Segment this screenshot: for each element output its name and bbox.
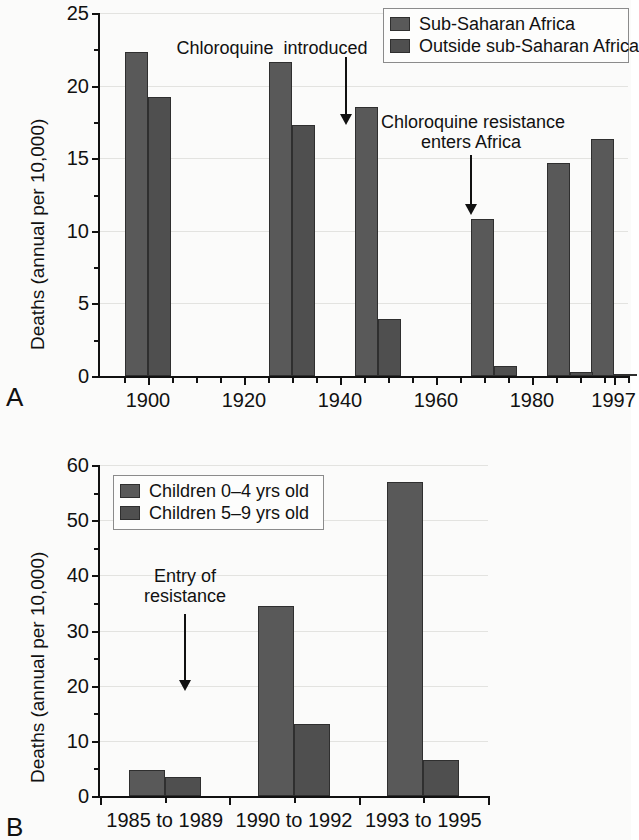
x-tick-mid — [294, 796, 296, 803]
y-tick-major — [92, 158, 100, 160]
x-tick-label: 1997 — [591, 390, 636, 410]
y-tick-minor — [94, 768, 100, 770]
x-axis-b — [98, 796, 488, 798]
y-tick-label: 5 — [78, 293, 89, 313]
y-tick-label: 15 — [67, 148, 89, 168]
panel-b: Deaths (annual per 10,000) 0102030405060… — [0, 418, 631, 840]
x-tick-label: 1960 — [414, 390, 459, 410]
legend-item: Outside sub-Saharan Africa — [390, 35, 620, 57]
bar — [165, 777, 201, 796]
y-tick-major — [92, 520, 100, 522]
bar — [355, 107, 378, 376]
y-axis-title-b: Deaths (annual per 10,000) — [28, 552, 47, 783]
legend-swatch-icon — [390, 39, 410, 53]
x-tick-minor — [172, 376, 174, 383]
panel-letter-a: A — [6, 384, 23, 410]
y-tick-minor — [94, 493, 100, 495]
x-tick-boundary — [488, 796, 490, 805]
x-tick-major — [532, 376, 534, 385]
legend-label: Outside sub-Saharan Africa — [419, 37, 639, 55]
x-tick-mid — [423, 796, 425, 803]
y-tick-label: 20 — [67, 76, 89, 96]
x-tick-major — [436, 376, 438, 385]
y-tick-minor — [94, 122, 100, 124]
x-tick-minor — [508, 376, 510, 383]
x-tick-major — [148, 376, 150, 385]
y-tick-major — [92, 575, 100, 577]
x-tick-boundary — [229, 796, 231, 805]
y-tick-label: 30 — [67, 621, 89, 641]
y-tick-major — [92, 631, 100, 633]
y-tick-major — [92, 741, 100, 743]
legend-swatch-icon — [390, 17, 410, 31]
x-tick-boundary — [100, 796, 102, 805]
x-tick-minor — [580, 376, 582, 383]
y-tick-major — [92, 303, 100, 305]
y-tick-minor — [94, 658, 100, 660]
bar — [471, 219, 494, 376]
annotation-arrow-chloroquine-resistance — [465, 155, 477, 215]
x-tick-label: 1980 — [510, 390, 555, 410]
y-tick-label: 20 — [67, 676, 89, 696]
x-tick-minor — [316, 376, 318, 383]
y-tick-label: 50 — [67, 510, 89, 530]
y-tick-label: 0 — [78, 786, 89, 806]
x-tick-label: 1990 to 1992 — [236, 810, 353, 830]
gridline — [100, 686, 488, 687]
bar — [148, 97, 171, 376]
y-tick-major — [92, 465, 100, 467]
bar — [129, 770, 165, 796]
x-tick-minor — [388, 376, 390, 383]
x-tick-major — [340, 376, 342, 385]
annotation-arrow-entry-of-resistance — [179, 614, 191, 692]
annotation-arrow-chloroquine-introduced — [340, 57, 352, 125]
annotation-chloroquine-resistance: Chloroquine resistance enters Africa — [381, 112, 561, 152]
y-tick-minor — [94, 548, 100, 550]
bar — [423, 760, 459, 796]
y-tick-label: 60 — [67, 455, 89, 475]
x-tick-minor — [268, 376, 270, 383]
x-tick-minor — [604, 376, 606, 383]
y-tick-major — [92, 86, 100, 88]
y-tick-major — [92, 13, 100, 15]
legend-swatch-icon — [120, 506, 140, 520]
x-tick-label: 1900 — [126, 390, 171, 410]
x-tick-mid — [165, 796, 167, 803]
x-tick-major — [614, 376, 616, 385]
y-tick-label: 25 — [67, 3, 89, 23]
bar — [269, 62, 292, 376]
annotation-entry-of-resistance: Entry of resistance — [125, 566, 245, 606]
bar — [378, 319, 401, 376]
annotation-chloroquine-introduced: Chloroquine introduced — [172, 38, 372, 58]
x-tick-major — [244, 376, 246, 385]
y-tick-minor — [94, 603, 100, 605]
x-tick-minor — [196, 376, 198, 383]
legend-b: Children 0–4 yrs old Children 5–9 yrs ol… — [113, 475, 324, 530]
x-tick-label: 1920 — [222, 390, 267, 410]
x-tick-minor — [484, 376, 486, 383]
y-tick-major — [92, 376, 100, 378]
legend-swatch-icon — [120, 484, 140, 498]
x-tick-minor — [556, 376, 558, 383]
x-tick-minor — [628, 376, 630, 383]
x-tick-minor — [412, 376, 414, 383]
y-tick-major — [92, 231, 100, 233]
plot-area-a: 0510152025 190019201940196019801997 — [100, 13, 628, 376]
y-tick-minor — [94, 713, 100, 715]
bar — [125, 52, 148, 376]
legend-label: Children 0–4 yrs old — [149, 482, 309, 500]
y-tick-label: 10 — [67, 731, 89, 751]
gridline — [100, 631, 488, 632]
panel-letter-b: B — [6, 814, 23, 840]
bar — [547, 163, 570, 376]
bar — [591, 139, 614, 376]
legend-a: Sub-Saharan Africa Outside sub-Saharan A… — [383, 8, 629, 63]
x-tick-minor — [364, 376, 366, 383]
legend-item: Sub-Saharan Africa — [390, 13, 620, 35]
y-tick-label: 10 — [67, 221, 89, 241]
x-tick-minor — [460, 376, 462, 383]
y-tick-minor — [94, 195, 100, 197]
bar — [294, 724, 330, 796]
x-tick-minor — [124, 376, 126, 383]
